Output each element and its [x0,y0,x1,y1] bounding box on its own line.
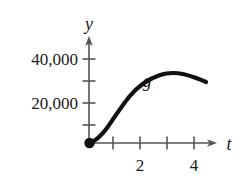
curve-label-g: g [143,71,152,91]
y-tick-label-40000: 40,000 [31,50,78,69]
x-tick-label-2: 2 [136,156,145,175]
y-tick-label-20000: 20,000 [31,94,78,113]
figure-container: 40,000 20,000 2 4 y t g [0,0,244,178]
x-tick-label-4: 4 [190,156,199,175]
graph-figure: 40,000 20,000 2 4 y t g [0,0,244,178]
x-axis-label: t [226,134,232,154]
y-axis-label: y [83,14,93,34]
origin-point-marker [84,138,94,148]
